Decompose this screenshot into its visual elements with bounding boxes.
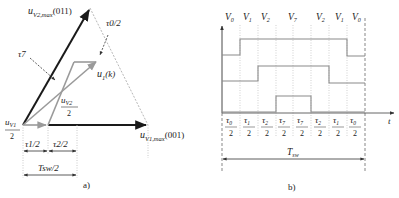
state-labels: V0 V1 V2 V7 V2 V1 V0	[225, 12, 361, 23]
label-tsw: Tsw	[287, 147, 299, 158]
label-uv2-half-num: uV2	[61, 95, 72, 106]
label-tsw-half: Tsw/2	[38, 163, 59, 173]
panel-a-space-vector-diagram: uV2,max(011) τ0/2 τ7 u1(k) uV2 2 uV1 2 u…	[5, 5, 184, 190]
svg-text:τ7: τ7	[297, 115, 303, 126]
svg-text:V1: V1	[335, 12, 344, 23]
label-v2-max: uV2,max(011)	[28, 5, 72, 18]
signal-phase-b	[222, 66, 365, 83]
panel-b-switching-waveforms: V0 V1 V2 V7 V2 V1 V0 τ02 τ12 τ22 τ72 τ72…	[222, 12, 394, 192]
svg-text:V2: V2	[316, 12, 325, 23]
label-tau7: τ7	[18, 49, 26, 59]
tau7-pointer	[30, 58, 55, 80]
svg-text:2: 2	[282, 129, 286, 138]
time-axis-label: t	[388, 116, 391, 126]
vector-v2-max	[23, 10, 89, 125]
svg-text:2: 2	[353, 129, 357, 138]
svg-text:V0: V0	[225, 12, 234, 23]
signal-phase-c	[222, 96, 365, 112]
svg-text:V1: V1	[243, 12, 252, 23]
svg-text:V7: V7	[288, 12, 298, 23]
signal-phase-a	[222, 39, 365, 56]
caption-b: b)	[288, 182, 296, 192]
figure-canvas: uV2,max(011) τ0/2 τ7 u1(k) uV2 2 uV1 2 u…	[0, 0, 399, 198]
tau0-pointer	[100, 35, 108, 55]
interval-1: τ12	[243, 115, 255, 138]
svg-text:τ2: τ2	[315, 115, 321, 126]
svg-text:2: 2	[318, 129, 322, 138]
svg-text:2: 2	[300, 129, 304, 138]
svg-text:2: 2	[229, 129, 233, 138]
interval-0: τ02	[225, 115, 237, 138]
label-uv1-half-den: 2	[10, 132, 14, 141]
label-uv2-half-den: 2	[67, 109, 71, 118]
label-uv1-half-num: uV1	[5, 117, 16, 128]
interval-7: τ02	[349, 115, 361, 138]
svg-text:τ0: τ0	[350, 115, 356, 126]
svg-text:τ2: τ2	[262, 115, 268, 126]
label-tau0-half: τ0/2	[106, 18, 121, 28]
interval-4: τ72	[296, 115, 308, 138]
svg-text:τ1: τ1	[244, 115, 250, 126]
caption-a: a)	[83, 180, 90, 190]
label-v1-max: uV1,max(001)	[140, 129, 184, 142]
vector-u1k	[23, 62, 96, 125]
svg-text:2: 2	[336, 129, 340, 138]
label-tau2-half: τ2/2	[53, 139, 68, 149]
interval-6: τ12	[332, 115, 344, 138]
interval-5: τ22	[314, 115, 326, 138]
svg-text:2: 2	[265, 129, 269, 138]
svg-text:τ1: τ1	[333, 115, 339, 126]
svg-text:2: 2	[247, 129, 251, 138]
svg-text:τ0: τ0	[226, 115, 232, 126]
label-tau1-half: τ1/2	[25, 139, 40, 149]
svg-text:V0: V0	[352, 12, 361, 23]
svg-text:V2: V2	[261, 12, 270, 23]
interval-2: τ22	[261, 115, 273, 138]
interval-3: τ72	[278, 115, 290, 138]
label-u1k: u1(k)	[97, 68, 115, 81]
svg-text:τ7: τ7	[279, 115, 285, 126]
